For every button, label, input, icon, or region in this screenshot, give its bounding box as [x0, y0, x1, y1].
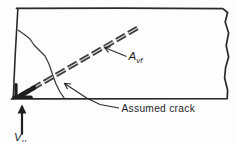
crack-line: [18, 30, 65, 99]
avf-leader-line: [105, 48, 127, 57]
avf-label: Avf: [128, 50, 144, 65]
shear-friction-figure: Avf Assumed crack Vu: [0, 0, 237, 142]
bar-anchor-hook: [19, 88, 34, 97]
rebar-core-highlight: [20, 27, 140, 96]
diagram-canvas: Avf Assumed crack Vu: [0, 0, 237, 142]
vu-label: Vu: [14, 131, 27, 142]
assumed-crack-label: Assumed crack: [122, 103, 196, 114]
assumed-crack-leader-line: [65, 84, 120, 109]
